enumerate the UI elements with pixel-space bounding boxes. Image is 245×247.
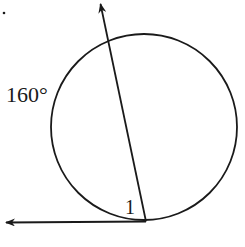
- stray-dot: [3, 12, 6, 15]
- circle: [51, 34, 237, 220]
- tangent-ray: [6, 222, 146, 223]
- diagram-canvas: 160° 1: [0, 0, 245, 247]
- arc-measure-label: 160°: [6, 82, 48, 107]
- angle-1-label: 1: [125, 196, 135, 218]
